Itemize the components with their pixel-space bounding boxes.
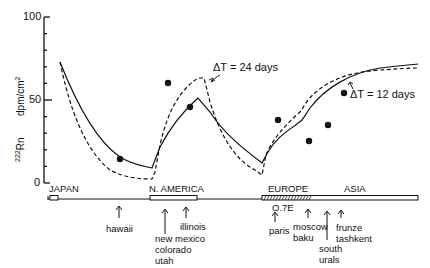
station-south-urals: south urals	[319, 243, 342, 265]
station-urals: urals	[319, 254, 342, 265]
y-label-unit: dpm/cm	[15, 80, 26, 116]
region-japan: JAPAN	[49, 184, 79, 194]
region-north-america: N. AMERICA	[149, 184, 204, 194]
station-new-mexico: new mexico	[155, 233, 205, 244]
region-europe: EUROPE	[268, 184, 308, 194]
station-nm-co-ut: new mexico colorado utah	[155, 233, 205, 266]
station-utah: utah	[155, 255, 205, 266]
station-moscow: moscow	[293, 221, 328, 232]
station-south: south	[319, 243, 342, 254]
y-tick-100: 100	[23, 11, 41, 22]
annotation-dt24: ΔT = 24 days	[213, 62, 278, 73]
station-paris: paris	[269, 225, 290, 236]
europe-factor-label: O.7E	[272, 202, 294, 213]
station-illinois: illinois	[180, 221, 206, 232]
dashed-curve-dt24	[60, 62, 418, 179]
y-label-element: Rn	[15, 138, 26, 151]
y-axis	[44, 17, 52, 183]
station-moscow-baku: moscow baku	[293, 221, 328, 243]
y-label-unit-sup: 2	[14, 76, 21, 80]
station-baku: baku	[293, 232, 328, 243]
y-label-isotope: 222	[14, 150, 21, 162]
observation-points	[117, 80, 347, 162]
region-asia: ASIA	[344, 184, 366, 194]
y-axis-label: 222Rn dpm/cm2	[14, 76, 26, 162]
station-hawaii: hawaii	[106, 223, 133, 234]
station-colorado: colorado	[155, 244, 205, 255]
station-frunze-tashkent: frunze tashkent	[336, 222, 372, 244]
y-tick-0: 0	[34, 177, 40, 188]
geographic-bar	[48, 196, 418, 201]
station-frunze: frunze	[336, 222, 372, 233]
annotation-dt12: ΔT = 12 days	[350, 89, 415, 100]
solid-curve-dt12	[60, 62, 418, 168]
y-tick-50: 50	[29, 94, 41, 105]
station-tashkent: tashkent	[336, 233, 372, 244]
